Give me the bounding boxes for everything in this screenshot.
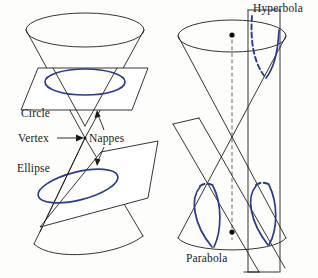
tilted-plane-outline <box>40 141 158 227</box>
hyperbola-front-branch <box>266 30 279 78</box>
label-vertex: Vertex <box>18 132 49 144</box>
vertex-point <box>84 137 87 140</box>
parabola-right-outer <box>251 186 268 245</box>
upper-nappe-rim-ellipse <box>26 13 144 47</box>
parabola-plane-top-edge <box>173 118 199 124</box>
parabola-cutting-plane <box>173 118 285 272</box>
vertex-arrow-head <box>76 135 84 142</box>
nappes-upper-leader-line <box>98 115 104 130</box>
right-cone-assembly: Hyperbola Parabola <box>173 2 303 272</box>
axis-bottom-point <box>229 229 234 234</box>
right-lower-left-edge <box>178 137 232 238</box>
tilted-cutting-plane <box>35 138 158 232</box>
label-hyperbola: Hyperbola <box>253 2 303 15</box>
label-ellipse: Ellipse <box>17 162 50 175</box>
parabola-cross-section-left <box>194 184 219 247</box>
right-upper-right-edge <box>232 36 286 137</box>
label-nappes: Nappes <box>89 132 125 145</box>
axis-top-point <box>229 32 234 37</box>
right-upper-left-edge <box>178 36 232 137</box>
parabola-left-outer <box>194 187 212 247</box>
parabola-left-top-dashed <box>200 184 214 186</box>
lower-nappe-bottom-arc <box>34 236 143 255</box>
hyperbola-cross-section <box>252 16 279 78</box>
hyperbola-back-branch <box>252 16 266 78</box>
label-parabola: Parabola <box>186 252 227 264</box>
vertex-annotation: Vertex <box>18 132 87 144</box>
horizontal-plane-outline <box>21 68 148 110</box>
conic-sections-figure: Circle Vertex Nappes Ellipse <box>0 0 318 278</box>
conic-sections-svg: Circle Vertex Nappes Ellipse <box>0 0 318 278</box>
left-cone-assembly: Circle Vertex Nappes Ellipse <box>17 13 158 255</box>
parabola-right-inner <box>269 185 276 245</box>
label-circle: Circle <box>21 107 50 119</box>
parabola-right-top-dashed <box>256 183 270 185</box>
